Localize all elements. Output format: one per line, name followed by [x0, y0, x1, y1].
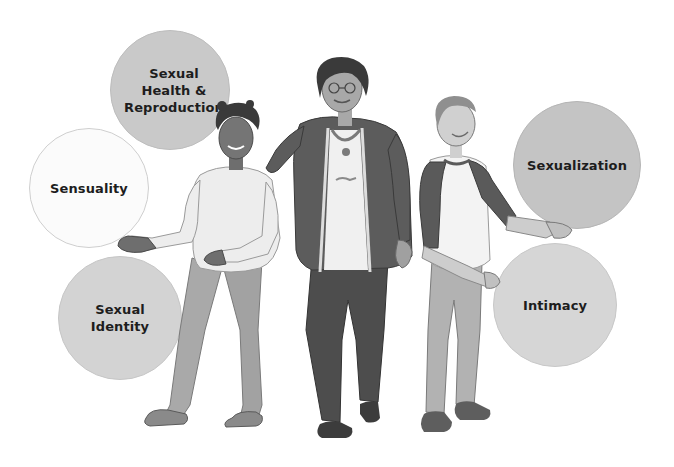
boy-figure — [420, 96, 572, 432]
shoe-icon — [455, 401, 491, 420]
woman-figure — [266, 57, 412, 438]
illustration-stage: Sexual Health & Reproduction Sensuality … — [0, 0, 674, 467]
girl-figure — [118, 100, 280, 427]
shoe-icon — [421, 411, 452, 432]
hand-icon — [484, 272, 500, 288]
shoe-icon — [317, 421, 352, 438]
people-illustration — [0, 0, 674, 467]
shoe-icon — [225, 412, 263, 427]
shoe-icon — [360, 401, 380, 422]
